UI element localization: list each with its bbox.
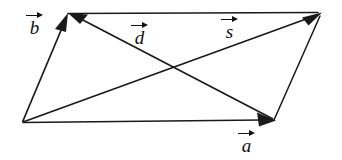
vector-label-s: s <box>221 16 238 41</box>
vector-label-s-text: s <box>221 22 238 41</box>
top-edge-line <box>68 13 318 14</box>
vector-d-shape <box>68 13 273 119</box>
over-arrow-icon <box>131 22 148 29</box>
vector-a-shaft <box>23 120 263 123</box>
vector-a-arrowhead <box>257 113 276 127</box>
vector-a-shape <box>23 113 277 127</box>
vector-label-d: d <box>131 22 148 47</box>
over-arrow-icon <box>26 12 43 19</box>
vector-b-shaft <box>23 28 63 122</box>
vector-d-arrowhead <box>68 13 88 24</box>
over-arrow-icon <box>221 16 238 23</box>
over-arrow-icon <box>238 130 255 137</box>
vector-label-a: a <box>238 130 255 155</box>
vector-label-a-text: a <box>238 136 255 155</box>
vector-diagram-svg <box>0 0 342 160</box>
right-edge-line <box>274 16 320 120</box>
vector-label-b: b <box>26 12 43 37</box>
vector-label-d-text: d <box>131 28 148 47</box>
vector-label-b-text: b <box>26 18 43 37</box>
vector-b-arrowhead <box>55 13 68 32</box>
vector-diagram-figure: b d s a <box>0 0 342 160</box>
parallelogram-plain-edges <box>68 13 320 121</box>
vector-d-shaft <box>80 19 273 120</box>
vector-s-shaft <box>23 17 313 123</box>
